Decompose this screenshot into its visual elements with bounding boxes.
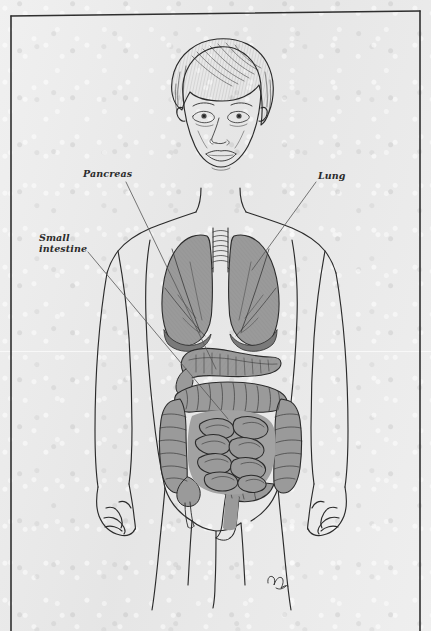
anatomy-illustration <box>0 0 431 631</box>
hair <box>172 39 274 125</box>
illustration-page: Pancreas Lung Small intestine <box>0 0 431 631</box>
artist-signature <box>268 576 288 589</box>
face <box>193 103 252 170</box>
label-small-intestine: Small intestine <box>39 232 87 254</box>
leader-line-lung <box>252 182 316 270</box>
small-intestine <box>188 410 276 495</box>
label-pancreas: Pancreas <box>83 168 132 179</box>
label-lung: Lung <box>318 170 346 181</box>
